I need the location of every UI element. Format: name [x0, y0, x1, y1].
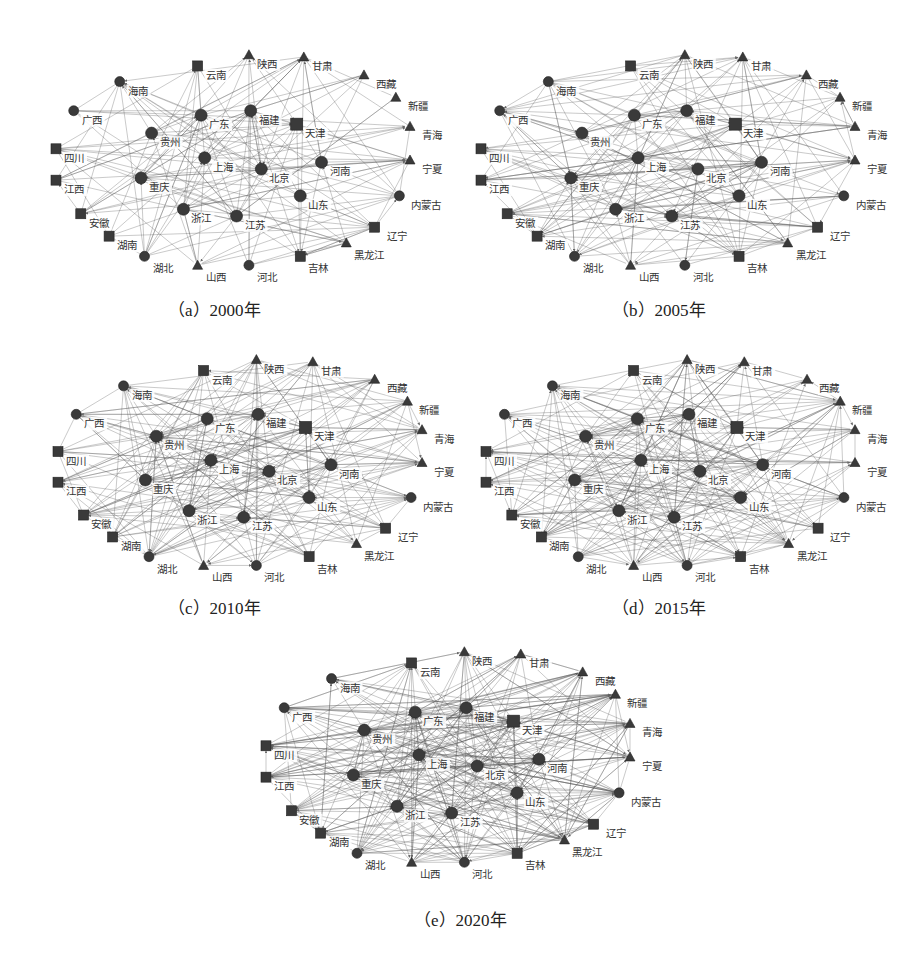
node-吉林	[734, 251, 744, 261]
node-label: 山东	[317, 501, 337, 513]
node-label: 湖北	[365, 859, 386, 871]
node-label: 河南	[771, 468, 791, 480]
node-label: 湖北	[583, 262, 604, 274]
node-label: 四川	[274, 749, 294, 761]
node-北京	[263, 465, 275, 477]
node-label: 河北	[695, 571, 716, 583]
node-label: 宁夏	[642, 760, 663, 772]
node-宁夏	[405, 155, 415, 164]
node-label: 新疆	[852, 100, 873, 112]
network-graph: 云南陕西甘肃西藏新疆青海宁夏内蒙古辽宁黑龙江吉林河北山西湖北湖南安徽江西四川广西…	[473, 40, 863, 280]
node-label: 安徽	[299, 814, 320, 826]
node-西藏	[578, 667, 588, 676]
node-贵州	[358, 724, 370, 736]
node-浙江	[177, 203, 189, 215]
node-label: 湖南	[121, 540, 141, 552]
node-贵州	[146, 127, 158, 139]
node-山东	[294, 190, 306, 202]
node-云南	[193, 61, 203, 71]
panel-caption-d: （d）2015年	[612, 594, 706, 619]
node-青海	[850, 425, 860, 434]
node-label: 新疆	[419, 404, 440, 416]
network-panel-b: 云南陕西甘肃西藏新疆青海宁夏内蒙古辽宁黑龙江吉林河北山西湖北湖南安徽江西四川广西…	[473, 40, 863, 280]
node-label: 宁夏	[422, 163, 443, 175]
node-陕西	[459, 647, 469, 656]
node-label: 湖南	[545, 239, 565, 251]
node-贵州	[580, 430, 592, 442]
node-label: 吉林	[308, 262, 329, 274]
node-label: 黑龙江	[796, 249, 827, 261]
node-label: 福建	[697, 417, 718, 429]
node-青海	[417, 425, 427, 434]
node-新疆	[835, 92, 845, 101]
panel-caption-a: （a）2000年	[168, 296, 261, 321]
node-甘肃	[308, 357, 318, 366]
node-label: 福建	[259, 114, 280, 126]
node-广西	[499, 409, 509, 419]
node-label: 山西	[206, 271, 226, 283]
node-label: 河北	[472, 868, 493, 880]
node-label: 广东	[209, 118, 229, 130]
node-label: 山东	[749, 501, 769, 513]
node-上海	[205, 454, 217, 466]
node-label: 湖北	[157, 563, 178, 575]
node-label: 贵州	[590, 136, 610, 148]
node-label: 湖北	[153, 262, 174, 274]
node-河北	[244, 260, 254, 270]
node-label: 西藏	[376, 78, 397, 90]
network-graph: 云南陕西甘肃西藏新疆青海宁夏内蒙古辽宁黑龙江吉林河北山西湖北湖南安徽江西四川广西…	[478, 345, 863, 580]
node-label: 黑龙江	[364, 550, 395, 562]
node-湖南	[536, 532, 546, 542]
node-内蒙古	[839, 493, 849, 503]
node-福建	[683, 408, 695, 420]
node-新疆	[610, 689, 620, 698]
node-label: 山西	[420, 868, 440, 880]
node-广东	[631, 413, 643, 425]
node-吉林	[304, 552, 314, 562]
node-label: 海南	[128, 85, 148, 97]
node-label: 江西	[64, 183, 84, 195]
node-label: 山东	[308, 199, 328, 211]
node-云南	[407, 658, 417, 668]
node-海南	[543, 77, 553, 87]
node-label: 天津	[305, 127, 326, 139]
node-北京	[471, 760, 483, 772]
node-重庆	[347, 769, 359, 781]
node-label: 北京	[708, 474, 728, 486]
node-四川	[261, 741, 271, 751]
node-label: 黑龙江	[354, 249, 385, 261]
node-云南	[199, 366, 209, 376]
node-label: 吉林	[747, 262, 768, 274]
node-label: 河南	[330, 165, 350, 177]
node-陕西	[682, 355, 692, 364]
node-label: 北京	[269, 172, 289, 184]
node-label: 云南	[642, 374, 662, 386]
node-辽宁	[589, 819, 599, 829]
node-重庆	[139, 474, 151, 486]
node-label: 上海	[219, 463, 240, 475]
node-label: 上海	[649, 463, 670, 475]
node-江西	[261, 772, 271, 782]
node-label: 吉林	[749, 563, 770, 575]
node-label: 安徽	[89, 217, 110, 229]
node-福建	[245, 105, 257, 117]
node-海南	[327, 674, 337, 684]
node-广西	[495, 106, 505, 116]
node-label: 江苏	[252, 520, 272, 532]
node-label: 云南	[639, 69, 659, 81]
node-安徽	[78, 510, 88, 520]
node-福建	[681, 105, 693, 117]
node-山东	[735, 492, 747, 504]
node-河南	[533, 753, 545, 765]
node-label: 青海	[867, 433, 888, 445]
node-label: 内蒙古	[856, 199, 886, 211]
node-label: 陕西	[264, 363, 284, 375]
node-吉林	[736, 552, 746, 562]
node-label: 新疆	[852, 404, 873, 416]
node-label: 江西	[66, 485, 86, 497]
node-西藏	[359, 70, 369, 79]
node-湖北	[144, 552, 154, 562]
node-湖北	[570, 251, 580, 261]
node-label: 福建	[695, 114, 716, 126]
node-吉林	[512, 848, 522, 858]
